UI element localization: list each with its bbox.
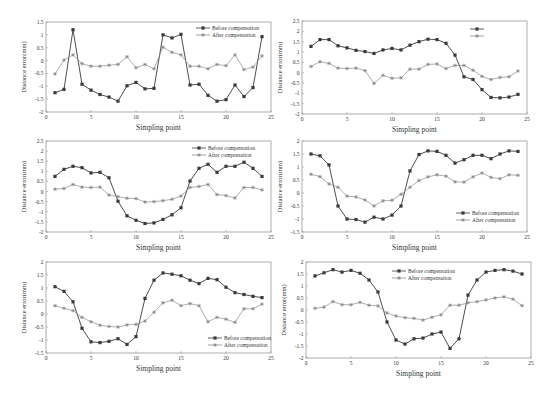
data-point: [426, 149, 429, 152]
data-point: [89, 171, 92, 174]
data-point: [179, 206, 182, 209]
data-point: [161, 271, 164, 274]
data-point: [336, 66, 340, 70]
data-point: [376, 304, 380, 308]
legend-marker: [475, 34, 479, 38]
y-tick-label: 1: [297, 49, 300, 55]
y-tick-label: 0.5: [293, 177, 300, 183]
data-point: [453, 162, 456, 165]
data-point: [381, 217, 384, 220]
figure-canvas: 0510152025-2-1.5-1-0.500.511.5Simpling p…: [0, 0, 554, 393]
data-point: [412, 337, 415, 340]
data-point: [322, 271, 325, 274]
data-point: [224, 98, 227, 101]
x-tick-label: 0: [45, 355, 48, 361]
data-point: [98, 323, 102, 327]
data-point: [116, 200, 119, 203]
data-point: [399, 76, 403, 80]
y-tick-label: 0.5: [37, 178, 44, 184]
data-point: [511, 270, 514, 273]
data-point: [318, 154, 321, 157]
y-tick-label: 1.5: [37, 272, 44, 278]
data-point: [408, 44, 411, 47]
data-point: [107, 340, 110, 343]
x-tick-label: 5: [90, 234, 93, 240]
data-point: [471, 175, 475, 179]
data-point: [206, 277, 209, 280]
data-point: [493, 269, 496, 272]
data-point: [363, 198, 367, 202]
data-point: [215, 278, 218, 281]
y-tick-label: -1: [299, 331, 304, 337]
data-point: [489, 96, 492, 99]
x-tick-label: 15: [438, 360, 444, 366]
data-point: [206, 94, 209, 97]
data-point: [412, 317, 416, 321]
data-point: [426, 38, 429, 41]
data-point: [471, 78, 474, 81]
y-tick-label: -2: [39, 229, 44, 235]
data-point: [426, 175, 430, 179]
y-tick-label: -1.5: [291, 229, 300, 235]
data-point: [489, 157, 492, 160]
data-point: [471, 154, 474, 157]
data-point: [372, 216, 375, 219]
data-point: [62, 187, 66, 191]
y-axis-label: Distance error(mm): [20, 282, 28, 333]
data-point: [507, 75, 511, 79]
x-tick-label: 5: [90, 355, 93, 361]
data-point: [62, 168, 65, 171]
x-axis-label: Simpling point: [136, 243, 182, 252]
data-point: [399, 204, 402, 207]
data-point: [53, 175, 56, 178]
data-point: [197, 282, 200, 285]
y-tick-label: -2: [299, 355, 304, 361]
data-point: [197, 167, 200, 170]
data-point: [197, 83, 200, 86]
x-tick-label: 20: [483, 360, 489, 366]
data-point: [430, 332, 433, 335]
legend-marker: [213, 336, 216, 339]
data-point: [394, 314, 398, 318]
data-point: [152, 221, 155, 224]
x-tick-label: 25: [268, 355, 274, 361]
data-point: [116, 325, 120, 329]
x-tick-label: 20: [479, 116, 485, 122]
data-point: [439, 313, 443, 317]
data-point: [417, 67, 421, 71]
y-tick-label: -1: [39, 337, 44, 343]
data-point: [170, 213, 173, 216]
y-tick-label: 1.5: [293, 39, 300, 45]
data-point: [260, 296, 263, 299]
legend-marker: [213, 343, 217, 347]
data-point: [340, 303, 344, 307]
y-axis-label: Distance error(mm): [20, 161, 28, 212]
data-point: [53, 187, 57, 191]
data-point: [170, 273, 173, 276]
data-point: [421, 336, 424, 339]
y-tick-label: -0.5: [35, 199, 44, 205]
data-point: [98, 171, 101, 174]
data-point: [89, 64, 93, 68]
data-point: [80, 327, 83, 330]
data-point: [116, 63, 120, 67]
data-point: [143, 222, 146, 225]
y-axis-label: Distance error(mm): [20, 41, 28, 92]
data-point: [516, 93, 519, 96]
data-point: [179, 33, 182, 36]
data-point: [80, 316, 84, 320]
y-tick-label: 2.5: [37, 138, 44, 144]
data-point: [475, 300, 479, 304]
data-point: [498, 177, 502, 181]
legend-marker: [197, 146, 200, 149]
data-point: [53, 72, 57, 76]
data-point: [372, 204, 376, 208]
data-point: [322, 305, 326, 309]
data-point: [403, 342, 406, 345]
legend-label: After compensation: [208, 152, 252, 158]
y-tick-label: 1.5: [293, 151, 300, 157]
data-point: [318, 38, 321, 41]
y-tick-label: -0.5: [35, 324, 44, 330]
data-point: [408, 169, 411, 172]
data-point: [408, 67, 412, 71]
